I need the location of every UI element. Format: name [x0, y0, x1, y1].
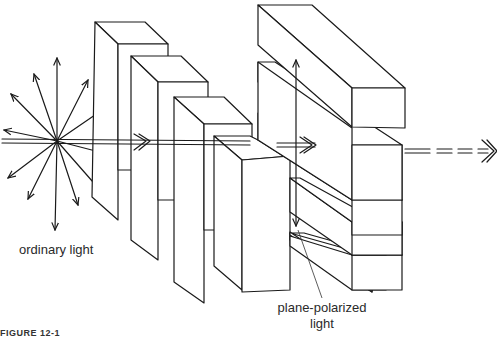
- plane-polarized-label: plane-polarized light: [272, 300, 372, 332]
- ordinary-light-label: ordinary light: [19, 242, 93, 258]
- figure-caption: FIGURE 12-1: [0, 328, 60, 338]
- plane-polarized-label-line2: light: [272, 316, 372, 332]
- transmitted-beam: [405, 140, 497, 162]
- plane-polarized-label-line1: plane-polarized: [272, 300, 372, 316]
